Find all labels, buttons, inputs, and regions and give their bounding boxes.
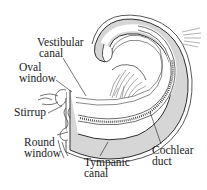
label-oval-window: Oval window [19,62,56,84]
label-cochlear-duct: Cochlear duct [152,145,194,167]
label-text: window [24,148,61,159]
label-text: canal [84,168,130,179]
label-round-window: Round window [24,137,61,159]
nerve-fibers [110,65,146,98]
label-text: duct [152,156,194,167]
label-tympanic-canal: Tympanic canal [84,157,130,179]
cochlea-spiral [66,15,192,162]
left-wall [64,108,70,128]
label-stirrup: Stirrup [14,107,46,118]
label-text: window [19,73,56,84]
label-text: Stirrup [14,107,46,118]
cochlea-diagram: Vestibular canal Oval window Stirrup Rou… [0,0,207,190]
label-text: canal [37,48,84,59]
auditory-nerve-fibers [182,28,201,47]
stirrup-bone [38,90,66,107]
label-vestibular-canal: Vestibular canal [37,37,84,59]
